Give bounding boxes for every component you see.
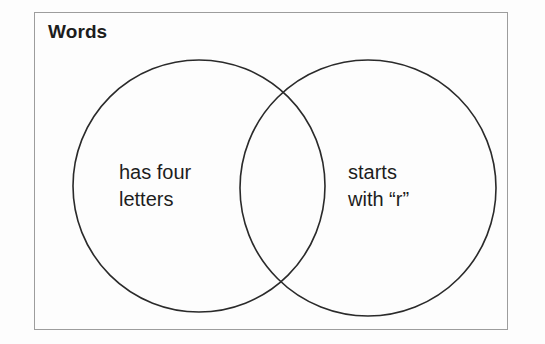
venn-circles-layer (0, 0, 545, 344)
venn-circle-left (73, 60, 325, 312)
venn-diagram: Words has four letters starts with “r” (0, 0, 545, 344)
set-label-right: starts with “r” (348, 159, 409, 213)
set-label-left: has four letters (119, 159, 191, 213)
